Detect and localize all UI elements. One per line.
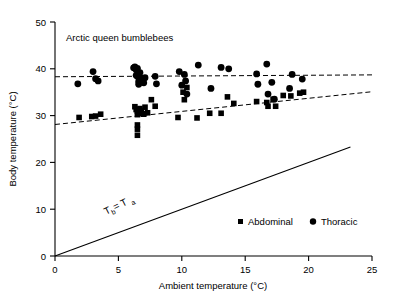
data-point-abdominal (135, 132, 141, 138)
data-point-abdominal (93, 113, 99, 119)
data-point-abdominal (273, 103, 279, 109)
data-point-abdominal (288, 93, 294, 99)
data-point-thoracic (265, 91, 272, 98)
chart-legend: Abdominal Thoracic (238, 216, 358, 227)
data-point-abdominal (135, 126, 141, 132)
data-point-thoracic (74, 80, 81, 87)
series-thoracic-points (74, 61, 305, 103)
data-point-thoracic (289, 71, 296, 78)
y-tick-label-20: 20 (35, 157, 46, 168)
tb-equals-ta-annotation: T b = T a (102, 193, 136, 219)
x-tick-label-0: 0 (52, 264, 57, 275)
identity-line (55, 147, 350, 256)
data-point-abdominal (182, 97, 188, 103)
y-axis-title: Body temperature (°C) (7, 91, 18, 186)
data-point-thoracic (95, 78, 102, 85)
x-axis-ticks (55, 256, 372, 261)
data-point-abdominal (301, 89, 307, 95)
chart-title: Arctic queen bumblebees (66, 32, 173, 43)
series-abdominal-points (76, 85, 306, 138)
data-point-abdominal (280, 93, 286, 99)
x-tick-label-25: 25 (367, 264, 378, 275)
data-point-thoracic (263, 61, 270, 68)
data-point-abdominal (98, 111, 104, 117)
data-point-thoracic (153, 80, 160, 87)
legend-label-abdominal: Abdominal (248, 216, 293, 227)
data-point-abdominal (152, 103, 158, 109)
data-point-thoracic (218, 64, 225, 71)
x-axis-tick-labels: 0 5 10 15 20 25 (52, 264, 377, 275)
abdominal-regression (55, 92, 372, 125)
x-tick-label-20: 20 (303, 264, 314, 275)
data-point-abdominal (265, 103, 271, 109)
legend-label-thoracic: Thoracic (321, 216, 358, 227)
data-point-thoracic (208, 85, 215, 92)
data-point-thoracic (152, 73, 159, 80)
data-point-abdominal (194, 115, 200, 121)
data-point-thoracic (299, 76, 306, 83)
data-point-abdominal (207, 110, 213, 116)
data-point-abdominal (231, 101, 237, 107)
data-point-abdominal (218, 110, 224, 116)
y-tick-label-30: 30 (35, 110, 46, 121)
annot-eq-t: = T (111, 196, 129, 212)
y-tick-label-50: 50 (35, 17, 46, 28)
legend-marker-thoracic (310, 218, 316, 224)
data-point-abdominal (254, 99, 260, 105)
y-tick-label-40: 40 (35, 63, 46, 74)
data-point-thoracic (183, 91, 190, 98)
y-tick-label-10: 10 (35, 204, 46, 215)
y-axis-tick-labels: 0 10 20 30 40 50 (35, 17, 46, 262)
data-point-thoracic (286, 85, 293, 92)
trend-lines-group (55, 75, 372, 256)
data-point-abdominal (225, 94, 231, 100)
data-point-thoracic (182, 78, 189, 85)
scatter-plot-svg: 0 10 20 30 40 50 0 5 10 15 20 25 Ambient… (0, 0, 397, 296)
data-point-abdominal (142, 104, 148, 110)
data-point-abdominal (175, 115, 181, 121)
data-point-thoracic (225, 65, 232, 72)
data-point-thoracic (254, 81, 261, 88)
data-point-abdominal (76, 115, 82, 121)
data-point-thoracic (137, 69, 144, 76)
data-point-thoracic (181, 71, 188, 78)
data-point-thoracic (268, 79, 275, 86)
data-point-thoracic (271, 96, 278, 103)
chart-figure: 0 10 20 30 40 50 0 5 10 15 20 25 Ambient… (0, 0, 397, 296)
data-point-thoracic (253, 71, 260, 78)
y-tick-label-0: 0 (41, 251, 46, 262)
data-point-abdominal (149, 97, 155, 103)
data-point-thoracic (195, 62, 202, 69)
data-point-abdominal (145, 110, 151, 116)
x-axis-title: Ambient temperature (°C) (159, 280, 267, 291)
y-axis-ticks (50, 22, 55, 256)
x-tick-label-5: 5 (116, 264, 121, 275)
x-tick-label-15: 15 (240, 264, 251, 275)
data-point-thoracic (90, 68, 97, 75)
x-tick-label-10: 10 (177, 264, 188, 275)
annot-ta-sub: a (130, 198, 137, 206)
thoracic-regression (55, 75, 372, 77)
data-point-thoracic (142, 74, 149, 81)
legend-marker-abdominal (238, 219, 243, 224)
